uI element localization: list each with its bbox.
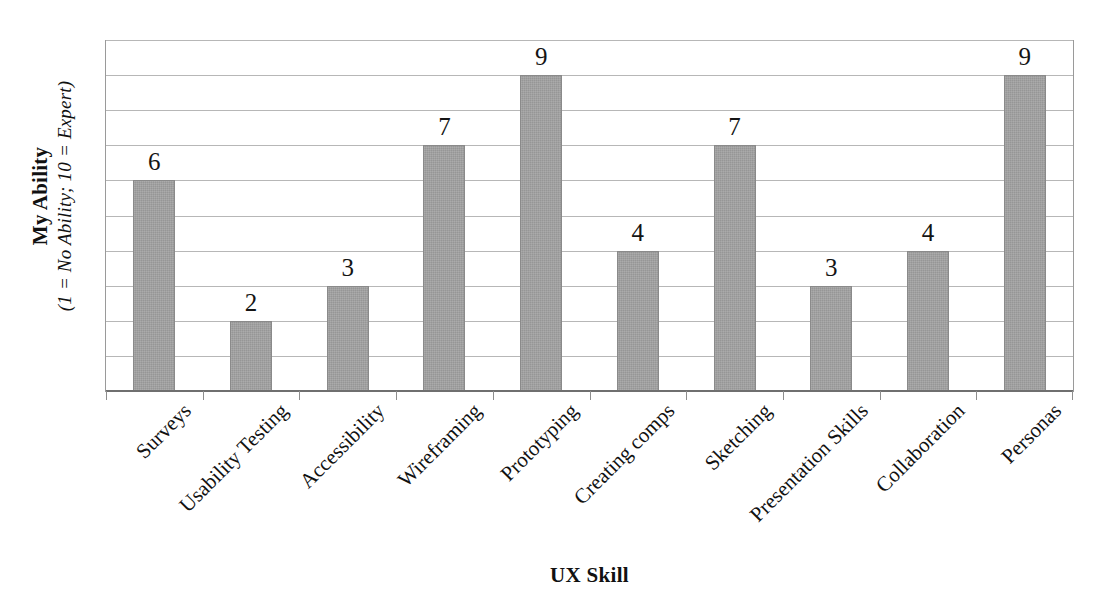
x-axis-tick (493, 391, 494, 400)
bar-group: 4 (880, 40, 977, 391)
bar[interactable] (423, 145, 465, 391)
bar-group: 6 (106, 40, 203, 391)
x-axis-tick (976, 391, 977, 400)
bar-value-label: 7 (728, 114, 741, 139)
bar-group: 4 (590, 40, 687, 391)
x-axis-tick (396, 391, 397, 400)
x-axis-tick (106, 391, 107, 400)
bar[interactable] (907, 251, 949, 391)
bar-value-label: 4 (632, 220, 645, 245)
plot-area: 6237947349 (106, 40, 1073, 391)
bar-group: 7 (686, 40, 783, 391)
y-axis-title: My Ability (1 = No Ability; 10 = Expert) (0, 0, 104, 392)
bar[interactable] (230, 321, 272, 391)
bar-chart: My Ability (1 = No Ability; 10 = Expert)… (0, 0, 1111, 614)
x-axis-ticks (106, 391, 1073, 400)
bar-value-label: 9 (535, 44, 548, 69)
x-axis-label: Surveys (128, 400, 195, 467)
bar[interactable] (133, 180, 175, 391)
bar-group: 9 (976, 40, 1073, 391)
x-axis-tick (203, 391, 204, 400)
bar[interactable] (1004, 75, 1046, 391)
x-axis-tick (880, 391, 881, 400)
bar-value-label: 9 (1018, 44, 1031, 69)
bar-group: 9 (493, 40, 590, 391)
bar[interactable] (714, 145, 756, 391)
y-axis-title-subtitle: (1 = No Ability; 10 = Expert) (53, 81, 77, 312)
bar[interactable] (520, 75, 562, 391)
x-axis-tick (1072, 391, 1073, 400)
bar-value-label: 4 (922, 220, 935, 245)
bar[interactable] (327, 286, 369, 391)
bars-layer: 6237947349 (106, 40, 1073, 391)
x-axis-tick (299, 391, 300, 400)
x-axis-tick (590, 391, 591, 400)
x-axis-category-labels: SurveysUsability TestingAccessibilityWir… (106, 400, 1073, 550)
x-axis-title: UX Skill (106, 563, 1073, 588)
bar[interactable] (810, 286, 852, 391)
bar-value-label: 6 (148, 149, 161, 174)
bar-value-label: 7 (438, 114, 451, 139)
bar-value-label: 3 (825, 255, 838, 280)
bar[interactable] (617, 251, 659, 391)
y-axis-title-inner: My Ability (1 = No Ability; 10 = Expert) (27, 81, 77, 312)
bar-group: 3 (299, 40, 396, 391)
bar-value-label: 2 (245, 290, 258, 315)
x-axis-tick (686, 391, 687, 400)
bar-value-label: 3 (341, 255, 354, 280)
plot-right-border (1073, 40, 1074, 392)
x-axis-tick (783, 391, 784, 400)
bar-group: 3 (783, 40, 880, 391)
bar-group: 2 (203, 40, 300, 391)
y-axis-title-main: My Ability (27, 81, 53, 312)
bar-group: 7 (396, 40, 493, 391)
